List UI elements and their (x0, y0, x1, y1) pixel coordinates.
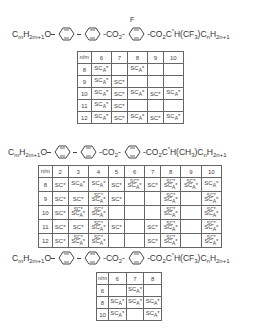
benzene-ring-icon (77, 145, 99, 159)
benzene-ring-icon (55, 27, 77, 41)
phase-table-1: n/m678910 8SCA*SCA* 9SCA*SC* 10SCA*SC*SC… (77, 51, 184, 124)
phase-table-2: n/m2345678910 8SC*SCA*SCA*SC*SC*SCA*SC*S… (38, 165, 222, 248)
right-chiral-group: -CO2C*H(CH3)CnH2n+1 (143, 146, 227, 158)
left-alkoxy-group: CmH2m+1O (12, 29, 51, 40)
structure-3-formula: CmH2m+1O -CO2- -CO2C*H(CF3)CnH2n+1 (12, 246, 230, 270)
benzene-ring-icon (55, 251, 77, 265)
benzene-ring-icon (81, 251, 103, 265)
benzene-ring-icon (121, 145, 143, 159)
phase-table-3: n/m678 6SCA* 8SCA*SCA*SCA* 10SCA*SCA* (96, 272, 162, 321)
ester-linker: -CO2- (103, 253, 125, 264)
benzene-ring-icon (51, 145, 73, 159)
fluorobenzene-ring-icon: F (125, 27, 147, 41)
structure-1-formula: CmH2m+1O -CO2- F -CO2C*H(CF3)CnH2n+1 (12, 22, 230, 46)
left-alkoxy-group: CmH2m+1O (8, 147, 47, 158)
right-chiral-group: -CO2C*H(CF3)CnH2n+1 (147, 252, 230, 264)
benzene-ring-icon (81, 27, 103, 41)
corner-cell: n/m (78, 52, 92, 64)
left-alkoxy-group: CmH2m+1O (12, 253, 51, 264)
structure-2-formula: CmH2m+1O -CO2- -CO2C*H(CH3)CnH2n+1 (8, 140, 226, 164)
ester-linker: -CO2- (99, 147, 121, 158)
right-chiral-group: -CO2C*H(CF3)CnH2n+1 (147, 28, 230, 40)
benzene-ring-icon (125, 251, 147, 265)
fluoro-substituent: F (130, 16, 134, 23)
ester-linker: -CO2- (103, 29, 125, 40)
